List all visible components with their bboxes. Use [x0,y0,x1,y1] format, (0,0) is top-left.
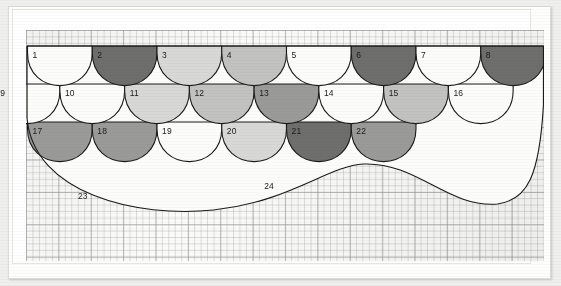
scale-number-4: 4 [227,51,232,60]
scale-number-21: 21 [292,127,302,136]
scale-number-1: 1 [33,51,38,60]
scale-number-17: 17 [33,127,43,136]
scale-number-5: 5 [292,51,297,60]
scale-number-2: 2 [97,51,102,60]
scale-number-8: 8 [486,51,491,60]
scale-number-22: 22 [356,127,366,136]
scale-number-24: 24 [264,182,274,191]
scale-number-14: 14 [324,89,334,98]
figure-canvas: 123456789101112131415161718192021222324 [0,0,561,286]
scale-number-12: 12 [194,89,204,98]
scale-number-15: 15 [389,89,399,98]
scale-number-16: 16 [453,89,463,98]
scale-number-10: 10 [65,89,75,98]
scale-number-9: 9 [0,89,5,98]
scale-number-23: 23 [78,192,88,201]
scale-number-20: 20 [227,127,237,136]
scale-number-3: 3 [162,51,167,60]
scale-number-18: 18 [97,127,107,136]
scale-number-6: 6 [356,51,361,60]
scale-number-7: 7 [421,51,426,60]
scallop-pattern [0,0,561,286]
scale-number-19: 19 [162,127,172,136]
scale-number-13: 13 [259,89,269,98]
scale-number-11: 11 [130,89,139,98]
